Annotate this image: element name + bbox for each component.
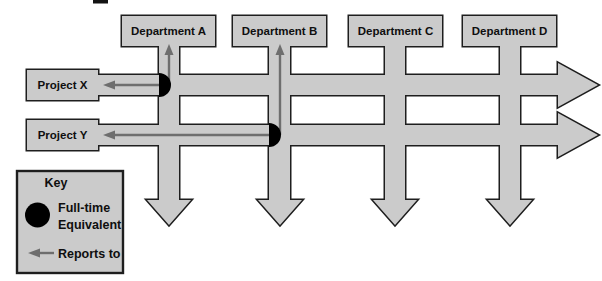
department-d-label: Department D [472, 25, 547, 37]
project-x-label: Project X [38, 79, 88, 91]
cropped-title-remnant [93, 0, 108, 4]
key-title: Key [45, 176, 68, 190]
department-a-label: Department A [131, 25, 206, 37]
key-fte-circle-icon [25, 203, 50, 228]
key-fte-label-line2: Equivalent [58, 218, 122, 232]
key-reports-label: Reports to [58, 247, 121, 261]
project-y-label: Project Y [38, 129, 88, 141]
key-fte-label-line1: Full-time [58, 201, 110, 215]
key-legend: Key Full-time Equivalent Reports to [17, 171, 123, 273]
department-b-label: Department B [242, 25, 317, 37]
department-c-label: Department C [358, 25, 433, 37]
diagram-canvas: Department A Department B Department C D… [0, 0, 602, 281]
matrix-organization-diagram: Department A Department B Department C D… [0, 0, 602, 281]
